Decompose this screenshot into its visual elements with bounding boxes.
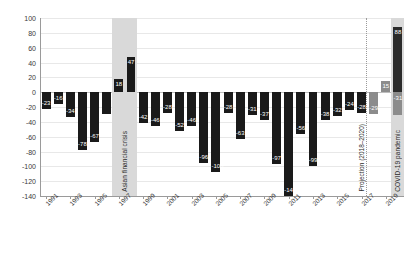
y-axis-tick-label: 80 [2,29,36,36]
x-axis-tick-label: 1995 [93,192,108,207]
gridline-40 [40,63,404,64]
y-axis-tick-label: -60 [2,133,36,140]
x-axis-tick-label: 2009 [262,192,277,207]
bar-value-2020-secondary: -31 [393,95,402,101]
bar-value-2009: -37 [260,111,269,117]
bar-value-2001: -28 [163,104,172,110]
y-axis-tick-label: 100 [2,15,36,22]
gridline--80 [40,152,404,153]
x-axis-tick-label: 2013 [311,192,326,207]
bar-chart: 100806040200-20-40-60-80-100-120-140Asia… [0,0,419,264]
bar-value-2015: -32 [333,107,342,113]
band-label-asian-financial-crisis: Asian financial crisis [121,131,128,192]
bar-value-2003: -46 [187,117,196,123]
bar-2004[interactable] [199,92,208,163]
bar-value-1998: 47 [127,59,136,65]
bar-value-2000: -46 [151,117,160,123]
bar-2005[interactable] [211,92,220,172]
bar-2010[interactable] [272,92,281,164]
bar-value-1999: -42 [139,114,148,120]
y-axis-tick-label: 0 [2,89,36,96]
y-axis-tick-label: -120 [2,178,36,185]
y-axis-tick-label: 20 [2,74,36,81]
bar-2011[interactable] [284,92,293,196]
bar-2020[interactable] [393,27,402,92]
bar-2013[interactable] [309,92,318,165]
gridline-80 [40,33,404,34]
bar-value-2012: -56 [296,125,305,131]
bar-value-2014: -38 [321,111,330,117]
gridline--120 [40,181,404,182]
bar-value-2013: -99 [309,157,318,163]
x-axis-tick-label: 1993 [68,192,83,207]
bar-value-2020: 88 [393,29,402,35]
bar-value-2007: -63 [236,130,245,136]
bar-value-2011: -140 [284,187,293,193]
x-axis-tick-label: 2017 [360,192,375,207]
y-axis-tick-label: 60 [2,44,36,51]
y-axis-tick-label: 40 [2,59,36,66]
x-axis-tick-label: 1999 [141,192,156,207]
y-axis-tick-label: -80 [2,148,36,155]
band-label-covid-19-pandemic: COVID-19 pandemic [394,130,401,192]
plot-area: 100806040200-20-40-60-80-100-120-140Asia… [40,18,404,196]
bar-value-1995: -67 [90,133,99,139]
bar-value-1993: -34 [66,108,75,114]
y-axis-tick-label: -100 [2,163,36,170]
y-axis-tick-label: -40 [2,118,36,125]
projection-label: Projection (2018–2020) [358,124,365,192]
bar-value-2017: -28 [357,104,366,110]
bar-value-1997: 18 [114,81,123,87]
x-axis-tick-label: 2005 [214,192,229,207]
bar-value-1992: -16 [54,95,63,101]
x-axis-tick-label: 2003 [190,192,205,207]
bar-value-2019: 15 [381,83,390,89]
x-axis-tick-label: 2001 [165,192,180,207]
bar-value-1991: -23 [42,100,51,106]
x-axis-tick-label: 2007 [238,192,253,207]
projection-divider-line [366,18,367,196]
bar-value-1994: -78 [78,141,87,147]
gridline-60 [40,48,404,49]
x-axis-tick-label: 2015 [335,192,350,207]
bar-value-2002: -52 [175,122,184,128]
gridline-100 [40,18,404,19]
bar-value-2004: -96 [199,154,208,160]
bar-value-2005: -108 [211,163,220,169]
bar-value-2010: -97 [272,155,281,161]
x-axis-tick-label: 1991 [44,192,59,207]
y-axis-tick-label: -140 [2,193,36,200]
bar-value-2008: -31 [248,106,257,112]
bar-value-2006: -28 [224,104,233,110]
bar-value-2016: -24 [345,101,354,107]
y-axis-tick-label: -20 [2,104,36,111]
bar-value-2018: -29 [369,105,378,111]
bar-1996[interactable] [102,92,111,114]
x-axis-tick-label: 2019 [384,192,399,207]
gridline-20 [40,77,404,78]
